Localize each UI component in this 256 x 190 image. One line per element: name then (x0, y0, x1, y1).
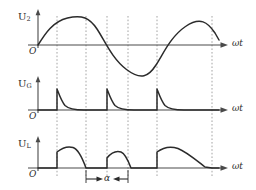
ul-axis-label: UL (18, 139, 31, 150)
ug-x-axis-arrow (221, 107, 229, 112)
ug-axis-label-subscript: G (26, 82, 31, 90)
ul-x-axis-label: ωt (232, 162, 243, 171)
waveform-svg (0, 0, 256, 190)
alpha-label: α (104, 174, 110, 183)
ul-y-axis-arrow (36, 136, 41, 142)
ug-y-axis-arrow (36, 76, 41, 82)
alpha-left-arrow-head (97, 177, 104, 182)
u2-axis-label: U2 (18, 12, 31, 23)
ul-x-axis-arrow (221, 165, 229, 170)
ug-x-axis-label: ωt (232, 104, 243, 113)
u2-x-axis-label: ωt (232, 39, 243, 48)
ul-axis-label-subscript: L (26, 142, 30, 150)
alpha-right-arrow-head (113, 177, 120, 182)
ug-pulse-train (38, 89, 219, 110)
ug-origin-label: O (29, 112, 36, 121)
ul-conduction-waveform (38, 147, 219, 168)
waveform-figure: U2 O ωt UG O ωt UL O ωt α (0, 0, 256, 190)
u2-y-axis-arrow (36, 9, 41, 15)
u2-x-axis-arrow (221, 42, 229, 47)
u2-sine-curve (38, 17, 219, 76)
u2-origin-label: O (29, 47, 36, 56)
ug-axis-label: UG (18, 79, 32, 90)
u2-axis-label-subscript: 2 (26, 15, 30, 23)
ul-origin-label: O (29, 170, 36, 179)
